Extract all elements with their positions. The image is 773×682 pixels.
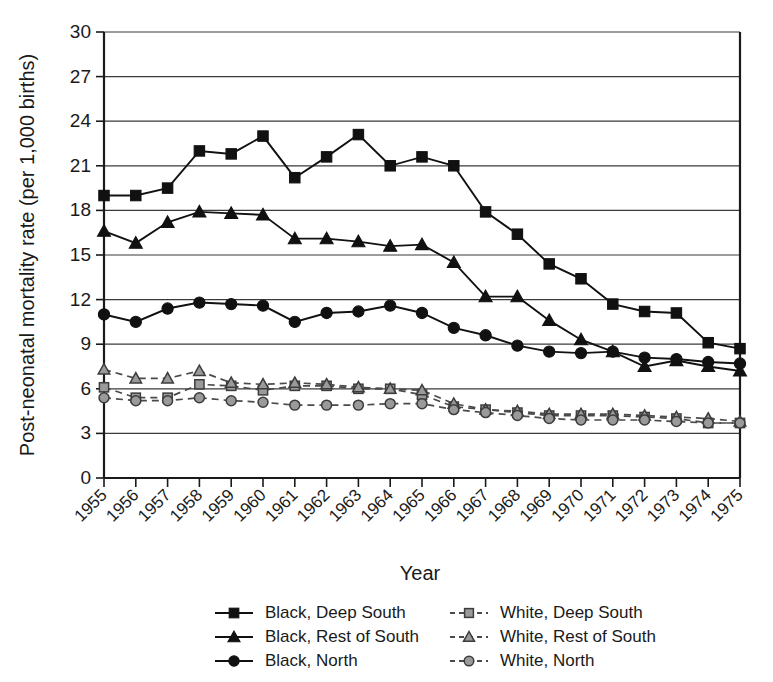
x-tick-label: 1964 bbox=[357, 485, 397, 525]
marker-circle bbox=[353, 306, 364, 317]
marker-circle bbox=[734, 358, 745, 369]
x-tick-label: 1966 bbox=[420, 485, 460, 525]
x-tick-label: 1968 bbox=[484, 485, 524, 525]
legend-item-1[interactable]: Black, Deep South bbox=[215, 603, 406, 622]
marker-square bbox=[735, 343, 745, 353]
marker-circle bbox=[640, 415, 650, 425]
marker-circle bbox=[416, 307, 427, 318]
x-tick-label: 1957 bbox=[134, 485, 174, 525]
marker-triangle bbox=[447, 256, 460, 268]
y-axis-ticks: 036912151821242730 bbox=[70, 21, 104, 488]
marker-circle bbox=[607, 346, 618, 357]
marker-square bbox=[608, 299, 618, 309]
marker-circle bbox=[449, 405, 459, 415]
marker-circle bbox=[226, 396, 236, 406]
marker-circle bbox=[289, 316, 300, 327]
series-2 bbox=[98, 205, 747, 376]
marker-circle bbox=[258, 397, 268, 407]
marker-circle bbox=[671, 353, 682, 364]
legend-item-label: Black, North bbox=[265, 651, 358, 670]
x-tick-label: 1959 bbox=[198, 485, 238, 525]
marker-square bbox=[194, 146, 204, 156]
marker-circle bbox=[512, 411, 522, 421]
legend-item-label: Black, Rest of South bbox=[265, 627, 419, 646]
marker-triangle bbox=[194, 365, 206, 375]
marker-triangle bbox=[98, 364, 110, 374]
y-tick-label: 9 bbox=[80, 333, 91, 354]
marker-circle bbox=[448, 322, 459, 333]
marker-square bbox=[290, 172, 300, 182]
y-tick-label: 18 bbox=[70, 199, 91, 220]
marker-circle bbox=[257, 300, 268, 311]
y-tick-label: 27 bbox=[70, 66, 91, 87]
y-tick-label: 12 bbox=[70, 289, 91, 310]
legend-item-label: White, Rest of South bbox=[500, 627, 656, 646]
marker-triangle bbox=[98, 225, 111, 237]
legend-item-6[interactable]: White, North bbox=[450, 651, 594, 670]
x-tick-label: 1965 bbox=[389, 485, 429, 525]
y-axis-title: Post-neonatal mortality rate (per 1,000 … bbox=[16, 54, 38, 456]
marker-square bbox=[671, 308, 681, 318]
series-line bbox=[104, 212, 740, 371]
y-tick-label: 6 bbox=[80, 378, 91, 399]
marker-circle bbox=[194, 297, 205, 308]
legend-item-label: White, North bbox=[500, 651, 594, 670]
y-tick-label: 3 bbox=[80, 422, 91, 443]
marker-square bbox=[229, 608, 239, 618]
y-tick-label: 0 bbox=[80, 467, 91, 488]
marker-triangle bbox=[543, 314, 556, 326]
marker-circle bbox=[575, 348, 586, 359]
post-neonatal-mortality-line-chart: 036912151821242730 195519561957195819591… bbox=[0, 0, 773, 682]
marker-circle bbox=[99, 393, 109, 403]
y-tick-label: 24 bbox=[70, 110, 92, 131]
marker-circle bbox=[130, 316, 141, 327]
marker-circle bbox=[163, 396, 173, 406]
marker-circle bbox=[639, 352, 650, 363]
marker-circle bbox=[229, 656, 239, 666]
legend-item-3[interactable]: Black, North bbox=[215, 651, 358, 670]
x-tick-label: 1969 bbox=[516, 485, 556, 525]
chart-figure: 036912151821242730 195519561957195819591… bbox=[0, 0, 773, 682]
x-tick-label: 1975 bbox=[707, 485, 747, 525]
marker-square bbox=[131, 190, 141, 200]
marker-square bbox=[195, 380, 204, 389]
x-tick-label: 1971 bbox=[579, 485, 619, 525]
marker-circle bbox=[162, 303, 173, 314]
x-tick-label: 1970 bbox=[548, 485, 588, 525]
marker-square bbox=[465, 609, 474, 618]
marker-circle bbox=[226, 298, 237, 309]
x-tick-label: 1974 bbox=[675, 485, 715, 525]
chart-legend: Black, Deep SouthBlack, Rest of SouthBla… bbox=[215, 603, 656, 670]
marker-triangle bbox=[575, 333, 588, 345]
x-tick-label: 1960 bbox=[230, 485, 270, 525]
marker-square bbox=[353, 129, 363, 139]
marker-circle bbox=[671, 417, 681, 427]
legend-item-label: White, Deep South bbox=[500, 603, 643, 622]
marker-square bbox=[99, 190, 109, 200]
x-tick-label: 1963 bbox=[325, 485, 365, 525]
legend-item-2[interactable]: Black, Rest of South bbox=[215, 627, 419, 646]
marker-square bbox=[449, 161, 459, 171]
x-tick-label: 1961 bbox=[261, 485, 301, 525]
marker-circle bbox=[98, 309, 109, 320]
x-tick-label: 1955 bbox=[71, 485, 111, 525]
marker-square bbox=[321, 152, 331, 162]
marker-square bbox=[576, 274, 586, 284]
marker-circle bbox=[544, 346, 555, 357]
x-tick-label: 1958 bbox=[166, 485, 206, 525]
y-tick-label: 15 bbox=[70, 244, 91, 265]
marker-circle bbox=[385, 399, 395, 409]
marker-circle bbox=[576, 415, 586, 425]
series-6 bbox=[99, 393, 745, 428]
marker-square bbox=[639, 306, 649, 316]
marker-square bbox=[480, 207, 490, 217]
marker-circle bbox=[290, 400, 300, 410]
x-axis-ticks: 1955195619571958195919601961196219631964… bbox=[71, 478, 747, 526]
marker-circle bbox=[131, 396, 141, 406]
x-tick-label: 1967 bbox=[452, 485, 492, 525]
legend-item-4[interactable]: White, Deep South bbox=[450, 603, 643, 622]
marker-circle bbox=[353, 400, 363, 410]
legend-item-label: Black, Deep South bbox=[265, 603, 406, 622]
marker-circle bbox=[194, 393, 204, 403]
legend-item-5[interactable]: White, Rest of South bbox=[450, 627, 656, 646]
